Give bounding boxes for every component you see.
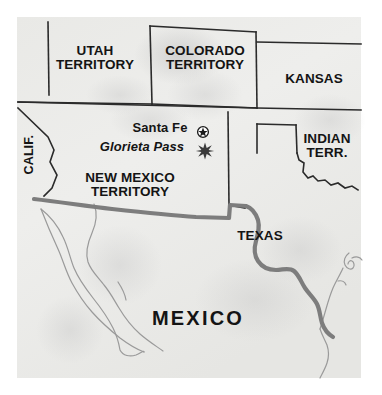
santa-fe-marker [198, 127, 209, 138]
land-base [17, 17, 366, 378]
historical-map: UTAH TERRITORY COLORADO TERRITORY KANSAS… [0, 0, 382, 395]
map-canvas [0, 0, 382, 395]
